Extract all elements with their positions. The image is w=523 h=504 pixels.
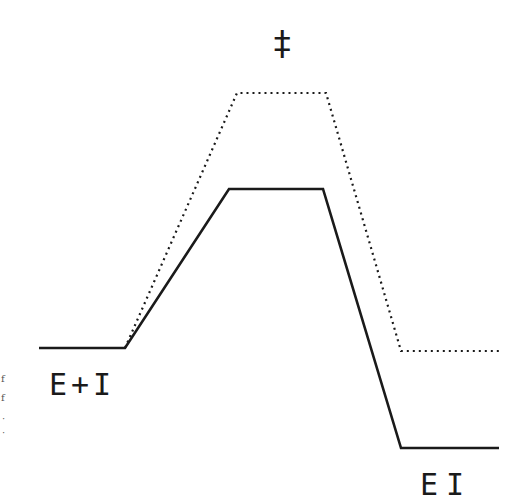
margin-fragment: f [1, 374, 5, 384]
dotted-energy-path [125, 93, 501, 351]
margin-fragment: f [1, 393, 5, 403]
product-label: EI [420, 470, 472, 500]
solid-energy-path [39, 189, 499, 448]
margin-fragment: · [2, 414, 5, 424]
energy-profile-diagram [0, 0, 523, 504]
transition-state-label: ‡ [272, 26, 292, 60]
margin-fragment: · [2, 428, 5, 438]
reactants-label: E+I [49, 370, 115, 400]
